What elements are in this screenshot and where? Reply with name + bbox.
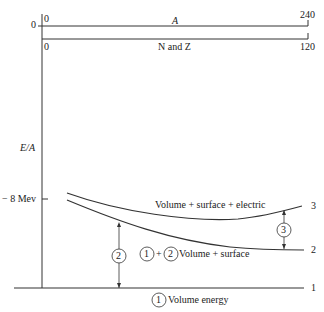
electric-gap-marker: 3 [281, 225, 286, 235]
curve-3-label: Volume + surface + electric [155, 200, 266, 210]
curve-3-number: 3 [311, 201, 316, 211]
circle-1-label: 1 [144, 249, 149, 259]
nz-axis-max: 120 [300, 42, 315, 52]
a-axis-min: 0 [44, 14, 49, 24]
minus-8-label: − 8 Mev [2, 194, 36, 204]
curve-2-number: 2 [311, 245, 316, 255]
curve-2-label: Volume + surface [179, 249, 249, 259]
a-axis-label: A [172, 16, 178, 26]
a-axis-max: 240 [300, 10, 315, 20]
curve-1-label: Volume energy [168, 295, 228, 305]
nz-axis-label: N and Z [158, 42, 191, 52]
plus-label: + [156, 249, 162, 259]
volume-circle-label: 1 [156, 295, 161, 305]
y-zero-label: 0 [31, 20, 36, 30]
circle-2-label: 2 [168, 249, 173, 259]
nz-axis-min: 0 [44, 42, 49, 52]
y-axis-label: E/A [20, 143, 35, 153]
surface-gap-marker: 2 [116, 251, 121, 261]
curve-1-number: 1 [311, 283, 316, 293]
